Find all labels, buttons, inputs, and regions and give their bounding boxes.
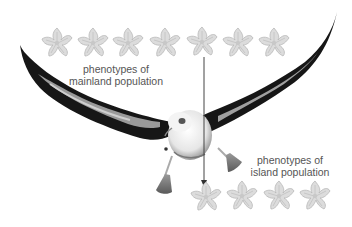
island-flowers	[191, 181, 330, 210]
mainland-flowers	[42, 27, 289, 56]
flower-icon	[150, 28, 180, 56]
illustration	[0, 0, 352, 227]
right-wing	[196, 12, 337, 134]
mainland-population-label: phenotypes of mainland population	[64, 63, 168, 87]
flower-icon	[259, 28, 289, 56]
flower-icon	[78, 28, 108, 56]
left-wing	[20, 45, 172, 140]
flower-icon	[264, 181, 294, 209]
flower-icon	[187, 27, 217, 55]
flower-icon	[191, 182, 221, 210]
flower-icon	[113, 28, 143, 56]
island-label-line1: phenotypes of	[240, 154, 340, 166]
flower-icon	[223, 28, 253, 56]
flower-icon	[227, 181, 257, 209]
flower-icon	[42, 28, 72, 56]
mainland-label-line2: mainland population	[64, 75, 168, 87]
island-label-line2: island population	[240, 166, 340, 178]
island-population-label: phenotypes of island population	[240, 154, 340, 178]
diagram-canvas: phenotypes of mainland population phenot…	[0, 0, 352, 227]
mainland-label-line1: phenotypes of	[64, 63, 168, 75]
bird-body	[164, 110, 212, 160]
flower-icon	[300, 181, 330, 209]
